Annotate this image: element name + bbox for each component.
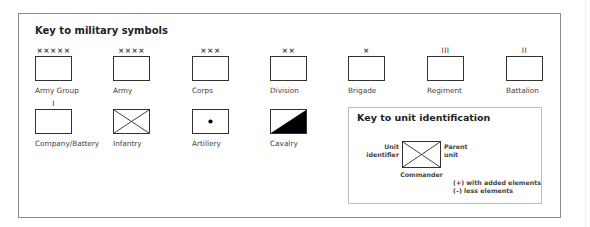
parent-unit-line1: Parent	[444, 143, 468, 151]
unit-identifier-line1: Unit	[366, 143, 399, 151]
label-battalion: Battalion	[506, 86, 539, 95]
echelon-division: ××	[270, 47, 307, 55]
corps-symbol-icon	[192, 56, 229, 81]
regiment-symbol-icon	[427, 56, 464, 81]
label-corps: Corps	[192, 86, 213, 95]
label-artillery: Artillery	[192, 139, 221, 148]
label-brigade: Brigade	[348, 86, 376, 95]
diagonal-fill-box-icon	[270, 109, 307, 134]
plain-box-icon	[35, 109, 72, 134]
label-army-group: Army Group	[35, 86, 79, 95]
echelon-army: ××××	[113, 47, 150, 55]
note-added-elements: (+) with added elements	[453, 179, 541, 187]
army-group-symbol-icon	[35, 56, 72, 81]
label-regiment: Regiment	[427, 86, 462, 95]
battalion-symbol-icon	[506, 56, 543, 81]
unit-identification-title: Key to unit identification	[357, 112, 490, 123]
echelon-brigade: ×	[348, 47, 385, 55]
brigade-symbol-icon	[348, 56, 385, 81]
label-division: Division	[270, 86, 299, 95]
commander-label: Commander	[398, 171, 445, 179]
page-edge-divider	[585, 0, 586, 227]
army-symbol-icon	[113, 56, 150, 81]
echelon-regiment: III	[427, 47, 464, 55]
label-infantry: Infantry	[113, 139, 142, 148]
echelon-army-group: ×××××	[35, 47, 72, 55]
crossed-box-icon	[113, 109, 150, 134]
division-symbol-icon	[270, 56, 307, 81]
unit-identifier-line2: identifier	[366, 151, 399, 159]
parent-unit-label: Parent unit	[444, 143, 468, 159]
label-army: Army	[113, 86, 132, 95]
note-less-elements: (–) less elements	[453, 187, 513, 195]
echelon-corps: ×××	[192, 47, 229, 55]
label-company-battery: Company/Battery	[35, 139, 99, 148]
label-cavalry: Cavalry	[270, 139, 298, 148]
unit-identifier-label: Unit identifier	[366, 143, 399, 159]
echelon-battalion: II	[506, 47, 543, 55]
dot-box-icon	[192, 109, 229, 134]
military-key-title: Key to military symbols	[35, 25, 168, 36]
unit-id-crossed-box-icon	[402, 141, 441, 168]
echelon-company: I	[35, 100, 72, 108]
parent-unit-line2: unit	[444, 151, 468, 159]
